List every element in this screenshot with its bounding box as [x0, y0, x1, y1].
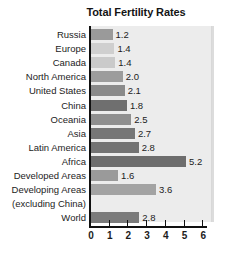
bar-row-label: World: [0, 211, 86, 225]
bar-row-label: United States: [0, 84, 86, 98]
bar: [91, 29, 113, 40]
x-axis-tick-label: 4: [157, 229, 175, 242]
bar-row: China1.8: [0, 99, 233, 113]
x-axis-tick: [184, 220, 185, 226]
chart-figure: Total Fertility Rates Russia1.2Europe1.4…: [0, 0, 233, 259]
bar: [91, 43, 114, 54]
bar-value-label: 2.7: [138, 127, 151, 141]
bar: [91, 170, 118, 181]
bar-row-label: Asia: [0, 127, 86, 141]
bar-row: Europe1.4: [0, 42, 233, 56]
bar-value-label: 2.8: [142, 141, 155, 155]
bar: [91, 100, 127, 111]
bar-row: Russia1.2: [0, 28, 233, 42]
bar-value-label: 2.1: [128, 84, 141, 98]
bar-row: Africa5.2: [0, 155, 233, 169]
bar: [91, 156, 186, 167]
bar-value-label: 1.8: [130, 99, 143, 113]
bar-row-label: China: [0, 99, 86, 113]
bar-row-label: Latin America: [0, 141, 86, 155]
bar-value-label: 1.4: [118, 56, 131, 70]
bar-row: North America2.0: [0, 70, 233, 84]
bar-value-label: 2.8: [142, 211, 155, 225]
x-axis-tick: [146, 220, 147, 226]
bar: [91, 71, 123, 82]
x-axis-tick-label: 6: [194, 229, 212, 242]
bar-row: World2.8: [0, 211, 233, 225]
bar-row: Developed Areas1.6: [0, 169, 233, 183]
x-axis-tick: [127, 220, 128, 226]
bar-value-label: 1.4: [117, 42, 130, 56]
bar-row-label: Oceania: [0, 113, 86, 127]
bar: [91, 57, 115, 68]
bar-row-label: Canada: [0, 56, 86, 70]
x-axis-tick-label: 3: [138, 229, 156, 242]
bar: [91, 142, 139, 153]
x-axis-tick: [165, 220, 166, 226]
bar-value-label: 5.2: [189, 155, 202, 169]
bar: [91, 114, 131, 125]
bar-row-label: North America: [0, 70, 86, 84]
bar-row: Oceania2.5: [0, 113, 233, 127]
bar-row-label-continued: (excluding China): [0, 197, 86, 211]
chart-title: Total Fertility Rates: [60, 6, 212, 19]
bar-row-label: Africa: [0, 155, 86, 169]
bar: [91, 128, 135, 139]
x-axis-tick: [109, 220, 110, 226]
bar-row: Developing Areas(excluding China)3.6: [0, 183, 233, 197]
bar-value-label: 2.5: [134, 113, 147, 127]
x-axis-tick-label: 2: [119, 229, 137, 242]
x-axis-tick-label: 5: [176, 229, 194, 242]
bar: [91, 184, 156, 195]
bar-value-label: 2.0: [126, 70, 139, 84]
x-axis-line: [89, 226, 207, 228]
bar-row: Asia2.7: [0, 127, 233, 141]
bar-row: Latin America2.8: [0, 141, 233, 155]
x-axis-tick-label: 0: [82, 229, 100, 242]
bar-value-label: 1.2: [116, 28, 129, 42]
bar-row: Canada1.4: [0, 56, 233, 70]
x-axis-tick: [90, 220, 91, 226]
bar-value-label: 1.6: [121, 169, 134, 183]
bar-row-label: Developed Areas: [0, 169, 86, 183]
bar-row-label: Europe: [0, 42, 86, 56]
x-axis-tick: [202, 220, 203, 226]
x-axis-tick-label: 1: [101, 229, 119, 242]
bar: [91, 212, 139, 223]
bar: [91, 85, 125, 96]
bar-row: United States2.1: [0, 84, 233, 98]
bar-value-label: 3.6: [159, 183, 172, 197]
bar-row-label: Developing Areas: [0, 183, 86, 197]
bar-row-label: Russia: [0, 28, 86, 42]
